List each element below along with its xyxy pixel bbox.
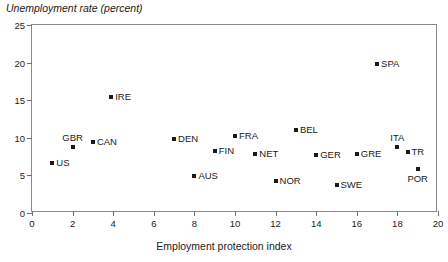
data-point-label: POR <box>407 174 428 184</box>
data-point-marker <box>416 167 420 171</box>
data-point-marker <box>355 152 359 156</box>
data-point-label: GRE <box>361 149 382 159</box>
x-tick-label: 12 <box>270 218 281 229</box>
data-point-marker <box>172 137 176 141</box>
x-tick-mark <box>357 211 358 216</box>
data-point-marker <box>274 179 278 183</box>
data-point-label: NOR <box>280 176 301 186</box>
data-point-label: US <box>56 158 69 168</box>
x-tick-mark <box>32 211 33 216</box>
x-tick-mark <box>154 211 155 216</box>
x-tick-label: 10 <box>230 218 241 229</box>
x-tick-mark <box>276 211 277 216</box>
data-point-label: FIN <box>219 146 234 156</box>
data-point-marker <box>91 140 95 144</box>
x-tick-label: 6 <box>151 218 156 229</box>
x-tick-mark <box>397 211 398 216</box>
x-tick-mark <box>73 211 74 216</box>
y-tick-label: 20 <box>14 57 25 68</box>
y-tick-mark <box>27 138 32 139</box>
y-tick-mark <box>27 175 32 176</box>
data-point-marker <box>406 150 410 154</box>
data-point-label: BEL <box>300 125 318 135</box>
data-point-marker <box>71 145 75 149</box>
y-tick-label: 15 <box>14 95 25 106</box>
x-tick-label: 14 <box>311 218 322 229</box>
x-tick-mark <box>113 211 114 216</box>
data-point-marker <box>294 128 298 132</box>
data-point-marker <box>109 95 113 99</box>
data-point-label: IRE <box>115 92 131 102</box>
data-point-marker <box>375 62 379 66</box>
data-point-label: SWE <box>341 180 363 190</box>
data-point-label: GBR <box>62 133 83 143</box>
data-point-marker <box>335 183 339 187</box>
x-tick-mark <box>438 211 439 216</box>
x-tick-label: 16 <box>352 218 363 229</box>
x-tick-label: 2 <box>70 218 75 229</box>
x-tick-label: 18 <box>392 218 403 229</box>
data-point-label: FRA <box>239 131 258 141</box>
data-point-marker <box>50 161 54 165</box>
data-point-label: SPA <box>381 59 399 69</box>
x-tick-mark <box>194 211 195 216</box>
data-point-marker <box>253 152 257 156</box>
plot-area: 0510152025 02468101214161820 USGBRCANIRE… <box>31 24 437 212</box>
x-tick-label: 4 <box>111 218 116 229</box>
data-point-label: CAN <box>97 137 117 147</box>
chart-screenshot: Unemployment rate (percent) 0510152025 0… <box>0 0 448 262</box>
y-tick-mark <box>27 100 32 101</box>
y-tick-mark <box>27 25 32 26</box>
x-tick-label: 8 <box>192 218 197 229</box>
chart-title: Unemployment rate (percent) <box>6 2 143 14</box>
data-point-marker <box>395 145 399 149</box>
data-point-label: TR <box>412 147 425 157</box>
data-point-label: GER <box>320 150 341 160</box>
data-point-marker <box>213 149 217 153</box>
x-tick-label: 0 <box>29 218 34 229</box>
y-tick-mark <box>27 63 32 64</box>
data-point-label: NET <box>259 149 278 159</box>
y-tick-label: 0 <box>20 208 25 219</box>
data-point-marker <box>314 153 318 157</box>
y-tick-label: 10 <box>14 132 25 143</box>
data-point-marker <box>233 134 237 138</box>
x-axis-title: Employment protection index <box>0 240 448 252</box>
data-point-label: AUS <box>198 171 218 181</box>
y-tick-label: 5 <box>20 170 25 181</box>
x-tick-mark <box>235 211 236 216</box>
data-point-label: DEN <box>178 134 198 144</box>
x-tick-mark <box>316 211 317 216</box>
data-point-marker <box>192 174 196 178</box>
y-tick-label: 25 <box>14 20 25 31</box>
x-tick-label: 20 <box>433 218 444 229</box>
data-point-label: ITA <box>390 133 404 143</box>
